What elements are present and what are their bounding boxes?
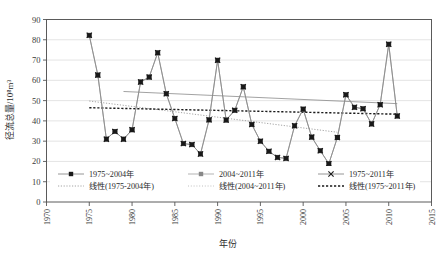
legend-label: 2004~2011年: [219, 169, 264, 179]
y-tick-label: 40: [32, 116, 41, 126]
x-tick-label: 1975: [85, 209, 94, 225]
legend-label: 1975~2004年: [89, 169, 134, 179]
x-axis-title: 年份: [219, 238, 237, 249]
y-tick-label: 20: [32, 156, 41, 166]
y-axis-title: 径流总量/10⁸m³: [4, 80, 15, 141]
x-tick-label: 2005: [342, 209, 351, 225]
y-tick-label: 90: [32, 15, 41, 25]
y-tick-label: 60: [32, 75, 41, 85]
x-tick-label: 2010: [385, 209, 394, 225]
x-tick-label: 2015: [428, 209, 437, 225]
y-tick-label: 70: [32, 55, 41, 65]
legend-label: 线性(2004~2011年): [219, 181, 286, 191]
x-tick-label: 1970: [43, 209, 52, 225]
y-tick-label: 10: [32, 177, 41, 187]
y-tick-label: 0: [36, 197, 40, 207]
chart-canvas: 0102030405060708090 19701975198019851990…: [0, 0, 448, 257]
legend-label: 1975~2011年: [349, 169, 394, 179]
chart-background: [0, 0, 448, 257]
legend-label: 线性(1975~2011年): [349, 181, 416, 191]
chart-legend: 1975~2004年2004~2011年1975~2011年线性(1975-20…: [50, 166, 420, 192]
x-tick-label: 1985: [171, 209, 180, 225]
runoff-line-chart: 0102030405060708090 19701975198019851990…: [0, 0, 448, 257]
y-tick-label: 30: [32, 136, 41, 146]
x-tick-label: 1990: [214, 209, 223, 225]
x-tick-label: 1980: [128, 209, 137, 225]
y-tick-label: 50: [32, 96, 41, 106]
legend-label: 线性(1975-2004年): [89, 181, 154, 191]
y-tick-label: 80: [32, 35, 41, 45]
x-tick-label: 1995: [256, 209, 265, 225]
x-tick-label: 2000: [299, 209, 308, 225]
